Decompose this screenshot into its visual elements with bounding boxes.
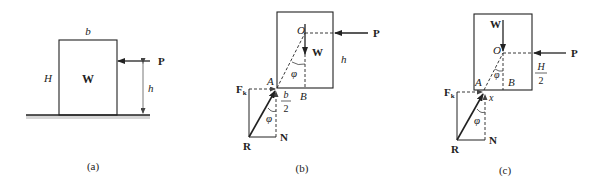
half-width-denominator: 2 [284,103,289,114]
weight-label: W [82,72,94,86]
half-height-denominator: 2 [539,75,544,86]
force-label: P [158,55,165,67]
angle-label-2: φ [266,112,272,124]
pivot-label: A [266,75,274,87]
offset-label: x [488,92,494,103]
center-label: O [297,24,305,36]
angle-arc-2 [477,109,485,113]
resultant-label: R [243,140,252,152]
width-label: b [85,25,91,37]
point-b-label: B [508,76,515,88]
force-label: P [373,27,380,39]
pivot-label: A [474,76,482,88]
figure-c: W O P H 2 φ A B x Fk N R φ (c) [444,14,578,177]
line-ao [277,33,305,88]
figure-b: O W P h φ A B b 2 Fk N R φ (b) [236,12,380,175]
friction-label: Fk [236,83,247,97]
center-label: O [493,44,501,56]
weight-label: W [312,46,323,58]
angle-label: φ [291,67,297,79]
half-height-numerator: H [536,61,545,72]
friction-label: Fk [444,86,455,100]
height-label: H [43,72,53,84]
height-label: h [341,53,347,65]
normal-label: N [489,134,497,146]
force-height-label: h [148,82,154,94]
angle-label-2: φ [474,114,480,126]
force-label: P [571,47,578,59]
half-width-numerator: b [284,89,289,100]
angle-arc [292,62,305,65]
caption-c: (c) [499,164,512,177]
caption-b: (b) [296,162,309,175]
point-b-label: B [300,90,307,102]
angle-label: φ [494,69,500,80]
resultant-label: R [451,143,460,155]
weight-label: W [490,18,501,30]
figure-canvas: b H W P h (a) O W P h φ A B b 2 Fk [0,0,599,188]
figure-a: b H W P h (a) [26,25,165,173]
caption-a: (a) [87,160,100,173]
normal-label: N [280,131,288,143]
